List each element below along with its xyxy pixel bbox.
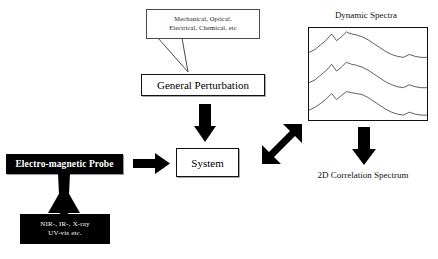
arrow-probe-to-system — [133, 153, 170, 174]
perturbation-sources-line2: Electrical, Chemical, etc — [169, 24, 237, 33]
spectra-trace-middle — [309, 62, 427, 87]
general-perturbation-box: General Perturbation — [141, 74, 265, 96]
dynamic-spectra-plot — [308, 27, 428, 121]
correlation-spectrum-label: 2D Correlation Spectrum — [318, 170, 409, 180]
system-box: System — [176, 148, 239, 177]
dynamic-spectra-label: Dynamic Spectra — [335, 10, 397, 20]
electromagnetic-probe-box: Electro-magnetic Probe — [6, 154, 123, 174]
spectra-trace-top — [309, 32, 427, 57]
perturbation-callout-tail — [158, 38, 208, 74]
arrow-spectra-to-correlation — [352, 127, 376, 165]
spectra-traces — [309, 28, 427, 120]
probe-sources-line1: NIR-, IR-, X-ray — [40, 220, 89, 229]
correlation-spectrum-label-wrap: 2D Correlation Spectrum — [288, 170, 438, 180]
perturbation-sources-callout: Mechanical, Optical, Electrical, Chemica… — [146, 9, 260, 39]
dynamic-spectra-title: Dynamic Spectra — [296, 10, 436, 20]
arrow-system-to-spectra — [262, 124, 302, 164]
spectra-trace-bottom — [309, 92, 427, 115]
probe-sources-line2: UV-vis etc. — [48, 229, 81, 238]
perturbation-sources-line1: Mechanical, Optical, — [174, 15, 231, 24]
probe-callout-tail — [44, 173, 84, 217]
probe-sources-callout: NIR-, IR-, X-ray UV-vis etc. — [20, 214, 110, 244]
general-perturbation-label: General Perturbation — [157, 79, 249, 91]
diagram-canvas: Mechanical, Optical, Electrical, Chemica… — [0, 0, 438, 259]
electromagnetic-probe-label: Electro-magnetic Probe — [15, 159, 113, 169]
arrow-perturbation-to-system — [194, 104, 216, 142]
system-label: System — [191, 157, 223, 169]
